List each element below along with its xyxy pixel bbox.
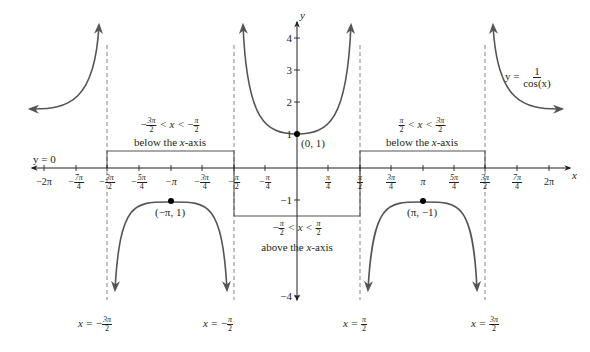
interval-desc-left: below the x-axis [134,136,206,148]
asymptote-label-neg-pi-2: x = −π2 [203,316,233,333]
x-tick-label: −2π [36,176,52,187]
y-tick-label: −4 [270,290,292,302]
x-tick-label: π [420,176,425,187]
point-pi [420,198,426,204]
point-0-1 [294,131,300,137]
interval-range-center: −π2 < x < π2 [273,220,322,237]
point-neg-pi [168,198,174,204]
x-axis-label: x [572,170,577,181]
x-tick-label: −π [165,176,177,187]
y-tick-label: −1 [270,194,292,206]
interval-range-right: π2 < x < 3π2 [399,117,446,134]
x-tick-label: −7π4 [68,174,84,191]
x-tick-label: 3π2 [480,174,490,191]
y-tick-label: 4 [276,32,292,44]
y-axis-label: y [300,10,305,21]
function-label: y = 1cos(x) [505,66,552,89]
point-label-0-1: (0, 1) [301,138,325,149]
x-tick-label: π4 [325,174,331,191]
x-tick-label: −3π2 [99,174,115,191]
x-tick-label: −5π4 [131,174,147,191]
x-tick-label: −π2 [228,174,240,191]
curve-far-left [30,25,99,109]
point-label-pi: (π, −1) [407,207,437,218]
x-tick-label: 5π4 [449,174,459,191]
y-tick-label: 1 [276,128,292,140]
vertical-asymptotes [107,45,485,300]
y-tick-label: 3 [276,64,292,76]
interval-desc-right: below the x-axis [386,136,458,148]
asymptote-label-3pi-2: x = 3π2 [471,316,499,333]
asymptote-label-pi-2: x = π2 [343,316,367,333]
x-tick-label: 7π4 [512,174,522,191]
horizontal-asymptote-label: y = 0 [33,154,56,165]
graph-canvas [0,0,590,352]
x-tick-label: −π4 [259,174,271,191]
asymptote-label-neg-3pi-2: x = −3π2 [78,316,112,333]
y-tick-label: 2 [276,96,292,108]
interval-desc-center: above the x-axis [261,241,332,253]
point-label-neg-pi: (−π, 1) [155,207,185,218]
x-tick-label: 2π [544,176,554,187]
interval-range-left: −3π2 < x < −π2 [140,117,199,134]
interval-box-left [107,151,234,168]
x-tick-label: π2 [357,174,363,191]
x-tick-label: −3π4 [194,174,210,191]
interval-box-right [360,151,485,168]
x-tick-label: 3π4 [386,174,396,191]
